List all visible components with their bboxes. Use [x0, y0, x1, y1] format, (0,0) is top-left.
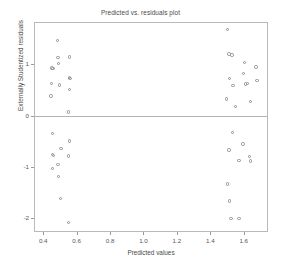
- scatter-point: [59, 147, 62, 150]
- scatter-point: [67, 154, 70, 157]
- scatter-point: [56, 39, 59, 42]
- scatter-point: [230, 53, 233, 56]
- scatter-point: [234, 105, 237, 108]
- y-tick-label: -1: [8, 163, 29, 170]
- x-tick-mark: [110, 232, 111, 235]
- scatter-point: [226, 28, 229, 31]
- scatter-point: [225, 97, 228, 100]
- scatter-point: [59, 197, 62, 200]
- scatter-point: [51, 67, 54, 70]
- scatter-point: [231, 131, 234, 134]
- x-tick-mark: [210, 232, 211, 235]
- scatter-point: [227, 148, 230, 151]
- scatter-point: [249, 159, 252, 162]
- x-tick-mark: [244, 232, 245, 235]
- predicted-vs-residuals-chart: Predicted vs. residuals plot Externally …: [0, 0, 281, 271]
- scatter-point: [241, 142, 244, 145]
- x-axis-label: Predicted values: [34, 249, 268, 256]
- scatter-point: [68, 77, 71, 80]
- scatter-point: [56, 56, 59, 59]
- scatter-point: [228, 77, 231, 80]
- y-tick-mark: [31, 116, 34, 117]
- scatter-point: [229, 217, 232, 220]
- y-tick-label: 1: [8, 60, 29, 67]
- scatter-point: [243, 61, 246, 64]
- scatter-point: [254, 65, 257, 68]
- scatter-point: [246, 82, 249, 85]
- x-tick-label: 1.0: [130, 237, 156, 244]
- zero-reference-line: [34, 116, 268, 117]
- scatter-point: [57, 62, 60, 65]
- scatter-point: [68, 55, 71, 58]
- scatter-point: [68, 139, 71, 142]
- y-tick-mark: [31, 218, 34, 219]
- scatter-point: [56, 163, 59, 166]
- chart-title: Predicted vs. residuals plot: [0, 9, 281, 16]
- scatter-point: [67, 221, 70, 224]
- x-tick-mark: [143, 232, 144, 235]
- x-tick-mark: [43, 232, 44, 235]
- y-tick-label: -2: [8, 214, 29, 221]
- scatter-point: [52, 154, 55, 157]
- scatter-point: [226, 182, 229, 185]
- scatter-point: [255, 79, 258, 82]
- scatter-point: [248, 155, 251, 158]
- scatter-point: [58, 83, 61, 86]
- scatter-point: [68, 88, 71, 91]
- x-tick-label: 0.4: [30, 237, 56, 244]
- x-tick-mark: [177, 232, 178, 235]
- y-tick-label: 0: [8, 112, 29, 119]
- scatter-point: [237, 217, 240, 220]
- x-tick-label: 0.6: [64, 237, 90, 244]
- scatter-point: [51, 132, 54, 135]
- scatter-point: [51, 167, 54, 170]
- x-tick-mark: [77, 232, 78, 235]
- y-tick-mark: [31, 167, 34, 168]
- scatter-point: [50, 82, 53, 85]
- y-tick-mark: [31, 64, 34, 65]
- x-tick-label: 1.2: [164, 237, 190, 244]
- scatter-point: [249, 100, 252, 103]
- scatter-point: [231, 84, 234, 87]
- x-tick-label: 1.6: [231, 237, 257, 244]
- plot-area: [34, 22, 268, 232]
- x-tick-label: 0.8: [97, 237, 123, 244]
- scatter-point: [49, 94, 52, 97]
- x-tick-label: 1.4: [197, 237, 223, 244]
- scatter-point: [57, 175, 60, 178]
- scatter-point: [228, 199, 231, 202]
- scatter-point: [242, 72, 245, 75]
- scatter-point: [237, 159, 240, 162]
- scatter-point: [67, 110, 70, 113]
